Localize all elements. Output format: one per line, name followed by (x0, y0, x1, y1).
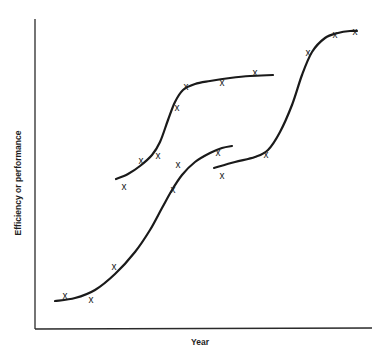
s-curve-1: xxxxxx (55, 146, 232, 305)
x-marker-icon: x (220, 170, 225, 181)
s-curve-3: xxxxx (214, 26, 358, 181)
x-marker-icon: x (184, 81, 189, 92)
data-point-markers: xxxxxx (63, 147, 221, 305)
x-marker-icon: x (264, 149, 269, 160)
x-marker-icon: x (175, 102, 180, 113)
x-marker-icon: x (112, 261, 117, 272)
data-point-markers: xxxxx (220, 26, 358, 181)
curve-line (214, 31, 357, 168)
x-axis-label: Year (191, 337, 210, 347)
series-layer: xxxxxxxxxxxxxxxxxx (55, 26, 358, 305)
x-marker-icon: x (306, 47, 311, 58)
x-marker-icon: x (89, 294, 94, 305)
x-marker-icon: x (216, 147, 221, 158)
x-marker-icon: x (171, 184, 176, 195)
chart-canvas: xxxxxxxxxxxxxxxxxx Year Efficiency or pe… (0, 0, 385, 356)
curve-line (55, 146, 232, 301)
x-marker-icon: x (176, 159, 181, 170)
x-marker-icon: x (156, 150, 161, 161)
y-axis-label: Efficiency or performance (13, 130, 23, 235)
x-marker-icon: x (220, 77, 225, 88)
x-marker-icon: x (63, 290, 68, 301)
x-axis (35, 328, 372, 329)
x-marker-icon: x (353, 26, 358, 37)
s-curve-2: xxxxxxx (116, 67, 273, 192)
x-marker-icon: x (139, 155, 144, 166)
x-marker-icon: x (253, 67, 258, 78)
x-marker-icon: x (122, 181, 127, 192)
x-marker-icon: x (333, 29, 338, 40)
axes (35, 19, 372, 329)
